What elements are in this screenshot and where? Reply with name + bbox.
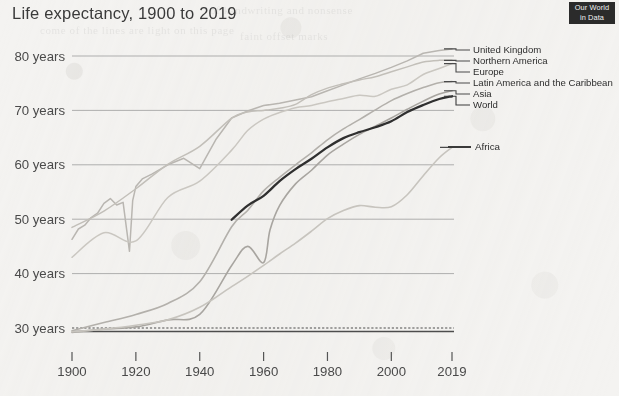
legend-label[interactable]: United Kingdom bbox=[473, 44, 541, 55]
legend-label[interactable]: World bbox=[473, 99, 498, 110]
x-axis-label: 2019 bbox=[437, 364, 466, 379]
series-line-northern-america bbox=[72, 60, 452, 227]
x-axis-ticks-group bbox=[72, 352, 452, 361]
legend-label[interactable]: Europe bbox=[473, 66, 504, 77]
x-axis-label: 1980 bbox=[313, 364, 342, 379]
legend-label[interactable]: Latin America and the Caribbean bbox=[473, 77, 613, 88]
x-axis-label: 1960 bbox=[249, 364, 278, 379]
y-axis-label: 80 years bbox=[14, 49, 65, 64]
legend-label[interactable]: Asia bbox=[473, 88, 492, 99]
x-axis-label: 1900 bbox=[57, 364, 86, 379]
x-axis-labels-group: 1900192019401960198020002019 bbox=[57, 364, 466, 379]
series-line-africa bbox=[72, 147, 452, 331]
x-axis-label: 1940 bbox=[185, 364, 214, 379]
y-axis-label: 40 years bbox=[14, 266, 65, 281]
x-axis-label: 1920 bbox=[121, 364, 150, 379]
series-line-united-kingdom bbox=[72, 49, 452, 251]
y-axis-label: 70 years bbox=[14, 103, 65, 118]
y-axis-label: 60 years bbox=[14, 157, 65, 172]
series-line-asia bbox=[72, 91, 452, 333]
life-expectancy-line-chart: 30 years40 years50 years60 years70 years… bbox=[0, 0, 619, 396]
y-axis-label: 30 years bbox=[14, 321, 65, 336]
y-axis-label: 50 years bbox=[14, 212, 65, 227]
series-lines-group bbox=[72, 49, 452, 332]
legend-label[interactable]: Africa bbox=[475, 141, 501, 152]
series-line-world bbox=[232, 96, 452, 219]
legend-group: United KingdomNorthern AmericaEuropeLati… bbox=[440, 44, 613, 152]
y-axis-labels-group: 30 years40 years50 years60 years70 years… bbox=[14, 49, 65, 336]
x-axis-label: 2000 bbox=[377, 364, 406, 379]
legend-label[interactable]: Northern America bbox=[473, 55, 548, 66]
series-line-europe bbox=[72, 64, 452, 258]
legend-leader-northern-america bbox=[444, 60, 470, 61]
